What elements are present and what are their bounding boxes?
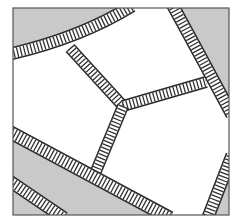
diagram-canvas [0, 0, 241, 223]
cell-junction-diagram [0, 0, 241, 223]
